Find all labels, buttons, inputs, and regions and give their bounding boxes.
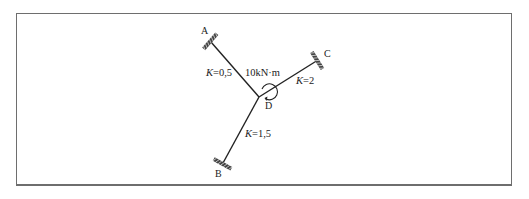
stiffness-label-dc: K=2 [295, 75, 314, 86]
k-value: =1,5 [252, 128, 271, 139]
moment-arc-icon [262, 84, 277, 100]
frame-diagram: A C B D 10kN·m K=0,5 K=2 K=1,5 [0, 0, 529, 199]
stiffness-label-db: K=1,5 [244, 128, 271, 139]
moment-label: 10kN·m [245, 67, 280, 78]
k-value: =0,5 [213, 67, 232, 78]
label-b: B [215, 168, 222, 179]
label-a: A [201, 25, 209, 36]
label-d: D [265, 100, 272, 111]
fixed-support-c-icon [310, 51, 324, 70]
k-value: =2 [303, 75, 314, 86]
stiffness-label-da: K=0,5 [205, 67, 232, 78]
label-c: C [324, 48, 331, 59]
